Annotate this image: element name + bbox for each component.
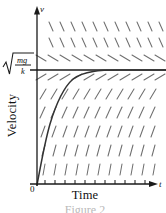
figure-container: v t 0 mg k Velocity Time Figure 2: [0, 0, 166, 213]
slope-tick: [132, 55, 142, 61]
asymptote-numerator: mg: [17, 56, 27, 65]
slope-tick: [48, 55, 58, 61]
slope-tick: [159, 22, 163, 31]
slope-tick: [137, 38, 141, 47]
asymptote-label: mg k: [3, 53, 34, 76]
slope-tick: [71, 38, 75, 47]
slope-tick: [107, 126, 111, 137]
slope-tick: [85, 126, 89, 137]
x-axis-title: Time: [52, 188, 118, 203]
v-axis-symbol: v: [40, 4, 44, 14]
asymptote-denominator: k: [21, 67, 25, 76]
y-axis-title: Velocity: [5, 81, 20, 151]
slope-tick: [106, 89, 112, 99]
solution-curve: [37, 70, 166, 185]
slope-tick: [141, 145, 144, 156]
slope-tick: [63, 126, 67, 137]
slope-tick: [144, 55, 154, 61]
slope-tick: [49, 38, 53, 47]
slope-tick: [155, 74, 165, 80]
slope-tick: [73, 89, 79, 99]
slope-tick: [126, 38, 130, 47]
slope-tick: [49, 22, 53, 31]
slope-tick: [65, 164, 67, 175]
slope-tick: [118, 126, 122, 137]
slope-tick: [104, 38, 108, 47]
slope-tick: [96, 74, 106, 80]
slope-tick: [120, 74, 130, 80]
slope-tick: [96, 126, 100, 137]
slope-tick: [139, 89, 145, 99]
slope-tick: [142, 164, 144, 175]
slope-tick: [86, 145, 89, 156]
origin-label: 0: [30, 184, 35, 194]
slope-tick: [126, 22, 130, 31]
slope-tick: [148, 38, 152, 47]
slope-tick: [155, 55, 165, 61]
slope-tick: [108, 74, 118, 80]
slope-tick: [129, 126, 133, 137]
slope-tick: [84, 107, 89, 118]
slope-tick: [95, 107, 100, 118]
slope-tick: [97, 145, 100, 156]
direction-field-group: [36, 22, 165, 175]
slope-tick: [115, 22, 119, 31]
slope-tick: [153, 164, 155, 175]
slope-tick: [159, 38, 163, 47]
slope-tick: [132, 74, 142, 80]
slope-tick: [108, 145, 111, 156]
slope-tick: [148, 22, 152, 31]
t-axis-arrowhead: [149, 181, 158, 187]
slope-tick: [151, 126, 155, 137]
slope-tick: [150, 107, 155, 118]
slope-tick: [72, 55, 82, 61]
slope-tick: [96, 55, 106, 61]
slope-tick: [60, 74, 70, 80]
slope-tick: [87, 164, 89, 175]
slope-tick: [128, 107, 133, 118]
slope-tick: [43, 164, 45, 175]
slope-tick: [76, 164, 78, 175]
slope-tick: [139, 107, 144, 118]
t-axis-symbol: t: [159, 179, 162, 189]
slope-tick: [144, 74, 154, 80]
slope-tick: [93, 38, 97, 47]
slope-tick: [82, 22, 86, 31]
slope-tick: [48, 74, 58, 80]
slope-tick: [84, 89, 90, 99]
slope-tick: [150, 89, 156, 99]
direction-field-plot: v t 0 mg k: [0, 0, 166, 213]
slope-tick: [152, 145, 155, 156]
slope-tick: [108, 55, 118, 61]
slope-tick: [73, 107, 78, 118]
slope-tick: [62, 89, 68, 99]
slope-tick: [140, 126, 144, 137]
slope-tick: [106, 107, 111, 118]
slope-tick: [40, 89, 46, 99]
slope-tick: [74, 126, 78, 137]
slope-tick: [128, 89, 134, 99]
slope-tick: [130, 145, 133, 156]
slope-tick: [119, 145, 122, 156]
slope-tick: [95, 89, 101, 99]
slope-tick: [60, 55, 70, 61]
slope-tick: [117, 107, 122, 118]
slope-tick: [41, 126, 45, 137]
slope-tick: [64, 145, 67, 156]
slope-tick: [93, 22, 97, 31]
slope-tick: [82, 38, 86, 47]
slope-tick: [120, 164, 122, 175]
slope-tick: [120, 55, 130, 61]
slope-tick: [137, 22, 141, 31]
figure-caption: Figure 2: [47, 204, 123, 213]
slope-tick: [131, 164, 133, 175]
slope-tick: [117, 89, 123, 99]
slope-tick: [71, 22, 75, 31]
slope-tick: [62, 107, 67, 118]
slope-tick: [51, 89, 57, 99]
slope-tick: [54, 164, 56, 175]
slope-tick: [109, 164, 111, 175]
slope-tick: [84, 55, 94, 61]
slope-tick: [60, 22, 64, 31]
t-axis: [30, 180, 158, 187]
